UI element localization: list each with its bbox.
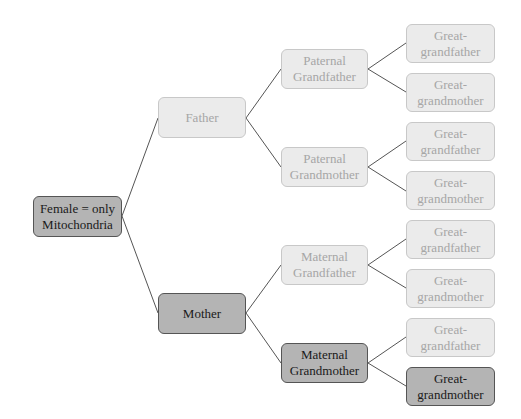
node-great-grandmother-1: Great-grandmother (406, 73, 495, 112)
label-line1: Paternal (303, 151, 346, 166)
node-father-label: Father (185, 110, 218, 126)
label-line1: Great- (434, 28, 467, 43)
node-great-grandfather-2: Great-grandfather (406, 122, 495, 161)
node-father: Father (158, 97, 246, 138)
label-line1: Paternal (303, 53, 346, 68)
node-maternal-grandmother: MaternalGrandmother (281, 343, 368, 383)
node-great-grandfather-4: Great-grandfather (406, 318, 495, 357)
label-line1: Great- (434, 371, 467, 386)
label-line2: grandfather (421, 338, 481, 353)
label-line1: Great- (434, 224, 467, 239)
label-line2: Grandmother (290, 363, 359, 378)
label-line1: Great- (434, 77, 467, 92)
node-root-line2: Mitochondria (42, 217, 113, 232)
node-root-line1: Female = only (40, 201, 115, 216)
label-line2: grandfather (421, 142, 481, 157)
label-line2: grandfather (421, 240, 481, 255)
label-line1: Maternal (301, 249, 348, 264)
label-line1: Great- (434, 273, 467, 288)
node-great-grandmother-2: Great-grandmother (406, 171, 495, 210)
node-root: Female = onlyMitochondria (33, 196, 122, 237)
label-line1: Great- (434, 175, 467, 190)
label-line2: Grandfather (293, 69, 356, 84)
label-line1: Great- (434, 322, 467, 337)
node-great-grandfather-1: Great-grandfather (406, 24, 495, 63)
label-line2: grandmother (417, 387, 483, 402)
label-line2: grandmother (417, 191, 483, 206)
node-great-grandmother-3: Great-grandmother (406, 269, 495, 308)
label-line1: Great- (434, 126, 467, 141)
node-great-grandfather-3: Great-grandfather (406, 220, 495, 259)
node-mother-label: Mother (183, 306, 221, 322)
label-line2: Grandmother (290, 167, 359, 182)
node-maternal-grandfather: MaternalGrandfather (281, 245, 368, 285)
label-line2: Grandfather (293, 265, 356, 280)
node-mother: Mother (158, 293, 246, 334)
label-line1: Maternal (301, 347, 348, 362)
node-paternal-grandfather: PaternalGrandfather (281, 49, 368, 89)
node-paternal-grandmother: PaternalGrandmother (281, 147, 368, 187)
node-great-grandmother-4: Great-grandmother (406, 367, 495, 406)
label-line2: grandfather (421, 44, 481, 59)
label-line2: grandmother (417, 93, 483, 108)
label-line2: grandmother (417, 289, 483, 304)
